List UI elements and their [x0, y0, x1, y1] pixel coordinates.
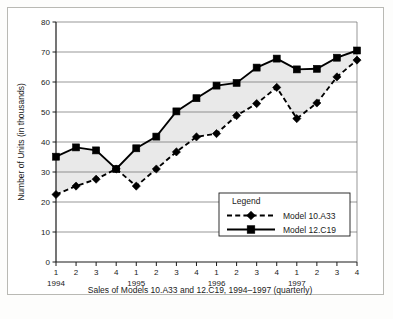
x-tick-label-1: 2: [74, 268, 79, 277]
x-tick-label-6: 3: [174, 268, 179, 277]
marker-model-12-c19-15: [354, 47, 361, 54]
x-tick-label-4: 1: [134, 268, 139, 277]
x-tick-label-7: 4: [194, 268, 199, 277]
legend-marker-square: [247, 226, 255, 234]
x-tick-label-10: 3: [254, 268, 259, 277]
marker-model-12-c19-5: [153, 133, 160, 140]
figure-container: 01020304050607080 1234123412341234199419…: [0, 0, 393, 319]
marker-model-12-c19-11: [273, 55, 280, 62]
x-tick-label-5: 2: [154, 268, 159, 277]
y-tick-label-50: 50: [41, 108, 50, 117]
marker-model-12-c19-4: [133, 145, 140, 152]
marker-model-12-c19-0: [53, 153, 60, 160]
marker-model-12-c19-10: [253, 64, 260, 71]
marker-model-12-c19-6: [173, 108, 180, 115]
series-band: [56, 51, 357, 195]
legend-label-model-12-c19: Model 12.C19: [283, 225, 336, 235]
x-year-label-1994: 1994: [47, 279, 65, 288]
y-tick-label-70: 70: [41, 48, 50, 57]
y-tick-label-30: 30: [41, 168, 50, 177]
y-tick-label-60: 60: [41, 78, 50, 87]
legend: Legend Model 10.A33 Model 12.C19: [219, 193, 350, 236]
x-tick-label-9: 2: [234, 268, 239, 277]
marker-model-12-c19-1: [73, 144, 80, 151]
y-tick-label-10: 10: [41, 228, 50, 237]
x-tick-label-11: 4: [275, 268, 280, 277]
x-tick-label-0: 1: [54, 268, 59, 277]
x-tick-label-8: 1: [214, 268, 219, 277]
y-axis-title: Number of Units (in thousands): [16, 83, 26, 201]
line-chart: 01020304050607080 1234123412341234199419…: [0, 0, 393, 319]
y-axis-ticks: 01020304050607080: [41, 18, 56, 267]
marker-model-12-c19-8: [213, 82, 220, 89]
y-tick-label-40: 40: [41, 138, 50, 147]
series-band-fill: [56, 51, 357, 195]
y-tick-label-20: 20: [41, 198, 50, 207]
y-tick-label-0: 0: [46, 258, 51, 267]
marker-model-12-c19-12: [293, 66, 300, 73]
marker-model-12-c19-13: [313, 65, 320, 72]
x-tick-label-13: 2: [315, 268, 320, 277]
x-tick-label-15: 4: [355, 268, 360, 277]
x-tick-label-12: 1: [295, 268, 300, 277]
chart-caption: Sales of Models 10.A33 and 12.C19, 1994–…: [88, 285, 313, 295]
x-tick-label-2: 3: [94, 268, 99, 277]
marker-model-12-c19-2: [93, 147, 100, 154]
y-tick-label-80: 80: [41, 18, 50, 27]
marker-model-12-c19-9: [233, 79, 240, 86]
legend-title: Legend: [232, 196, 261, 206]
x-tick-label-14: 3: [335, 268, 340, 277]
marker-model-12-c19-14: [333, 54, 340, 61]
marker-model-12-c19-7: [193, 95, 200, 102]
legend-label-model-10-a33: Model 10.A33: [283, 211, 336, 221]
marker-model-12-c19-3: [113, 166, 120, 173]
x-tick-label-3: 4: [114, 268, 119, 277]
